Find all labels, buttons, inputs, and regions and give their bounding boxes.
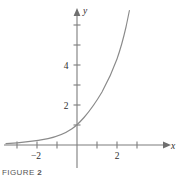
x-axis-arrow-icon <box>163 142 171 149</box>
y-axis-label: y <box>82 6 88 16</box>
x-axis-label: x <box>170 141 176 151</box>
x-tick-label--2: −2 <box>31 151 41 161</box>
figure-caption-label: FIGURE <box>2 168 35 177</box>
y-tick-label-4: 4 <box>64 61 69 71</box>
x-tick-label-2: 2 <box>115 151 120 161</box>
y-tick-label-2: 2 <box>64 101 69 111</box>
exponential-graph: x y −2 2 2 4 <box>0 0 180 178</box>
figure-container: x y −2 2 2 4 FIGURE 2 <box>0 0 180 178</box>
y-axis-arrow-icon <box>74 8 81 16</box>
figure-caption-number: 2 <box>37 168 42 177</box>
exponential-curve <box>6 11 129 144</box>
figure-caption: FIGURE 2 <box>2 166 42 177</box>
